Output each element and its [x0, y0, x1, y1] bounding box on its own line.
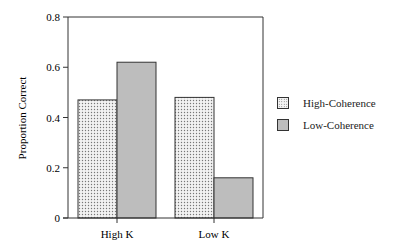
y-tick-label: 0.6: [46, 61, 60, 73]
gray-swatch-icon: [277, 119, 289, 131]
legend-item-high-coherence: High-Coherence: [277, 92, 376, 114]
legend: High-Coherence Low-Coherence: [277, 92, 376, 136]
bar-high-coherence-low-k: [175, 97, 214, 218]
y-tick-label: 0.2: [46, 162, 60, 174]
y-axis-label: Proportion Correct: [16, 77, 28, 160]
bar-high-coherence-high-k: [78, 100, 117, 218]
bar-low-coherence-low-k: [214, 178, 253, 218]
legend-label: Low-Coherence: [303, 119, 374, 131]
y-tick-label: 0.8: [46, 11, 60, 23]
bar-low-coherence-high-k: [117, 62, 156, 218]
legend-item-low-coherence: Low-Coherence: [277, 114, 376, 136]
y-tick-label: 0.4: [46, 112, 60, 124]
dotted-swatch-icon: [277, 97, 289, 109]
y-tick-label: 0: [55, 212, 61, 224]
x-tick-label: High K: [101, 228, 134, 240]
legend-label: High-Coherence: [303, 97, 376, 109]
x-tick-label: Low K: [199, 228, 230, 240]
